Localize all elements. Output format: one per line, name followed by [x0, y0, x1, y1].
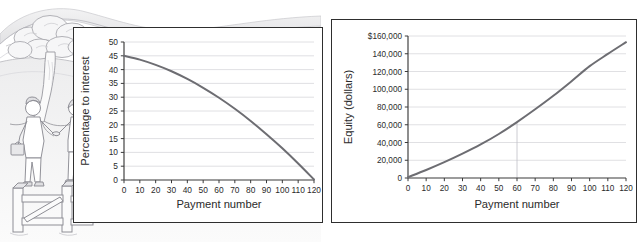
y-tick-label: 0: [113, 175, 118, 185]
page-caption-fragment: [0, 232, 643, 242]
y-tick-label: 40,000: [377, 139, 402, 148]
data-curve: [124, 56, 314, 180]
y-tick-label: 20: [109, 120, 119, 130]
x-tick-label: 90: [567, 184, 577, 193]
x-tick-label: 70: [531, 184, 541, 193]
x-tick-label: 100: [275, 185, 289, 195]
equity-chart-svg: 020,00040,00060,00080,000100,000120,0001…: [332, 20, 636, 222]
x-tick-label: 50: [199, 185, 209, 195]
x-tick-label: 120: [307, 185, 321, 195]
x-tick-label: 90: [262, 185, 272, 195]
x-tick-label: 0: [122, 185, 127, 195]
x-tick-label: 80: [549, 184, 559, 193]
x-tick-label: 0: [406, 184, 411, 193]
equity-chart-panel: 020,00040,00060,00080,000100,000120,0001…: [331, 19, 637, 223]
x-tick-label: 10: [135, 185, 145, 195]
figure-page: 0510152025303540455001020304050607080901…: [0, 0, 643, 242]
y-tick-label: 10: [109, 147, 119, 157]
y-tick-label: 120,000: [372, 68, 402, 77]
y-tick-label: 40: [109, 65, 119, 75]
x-tick-label: 30: [458, 184, 468, 193]
x-tick-label: 10: [422, 184, 432, 193]
y-tick-label: 5: [113, 161, 118, 171]
y-tick-label: 140,000: [372, 50, 402, 59]
y-tick-label: 35: [109, 78, 119, 88]
x-tick-label: 40: [183, 185, 193, 195]
x-tick-label: 30: [167, 185, 177, 195]
y-tick-label: 0: [397, 174, 402, 183]
x-tick-label: 70: [230, 185, 240, 195]
x-tick-label: 50: [494, 184, 504, 193]
x-tick-label: 80: [246, 185, 256, 195]
y-tick-label: 50: [109, 37, 119, 47]
y-tick-label: 20,000: [377, 156, 402, 165]
y-tick-label: 45: [109, 51, 119, 61]
interest-chart-panel: 0510152025303540455001020304050607080901…: [73, 27, 323, 223]
y-axis-title: Equity (dollars): [342, 69, 354, 144]
x-tick-label: 60: [512, 184, 522, 193]
y-tick-label: 25: [109, 106, 119, 116]
x-tick-label: 120: [619, 184, 633, 193]
x-tick-label: 60: [214, 185, 224, 195]
y-tick-label: 15: [109, 134, 119, 144]
x-tick-label: 110: [291, 185, 305, 195]
interest-chart-svg: 0510152025303540455001020304050607080901…: [74, 28, 322, 222]
y-tick-label: 80,000: [377, 103, 402, 112]
y-axis-title: Percentage to interest: [79, 55, 91, 165]
x-tick-label: 20: [440, 184, 450, 193]
y-tick-label: $160,000: [368, 32, 403, 41]
x-tick-label: 100: [583, 184, 597, 193]
x-axis-title: Payment number: [474, 198, 559, 210]
x-tick-label: 110: [601, 184, 614, 193]
y-tick-label: 30: [109, 92, 119, 102]
y-tick-label: 60,000: [377, 121, 402, 130]
x-tick-label: 20: [151, 185, 161, 195]
x-tick-label: 40: [476, 184, 486, 193]
y-tick-label: 100,000: [372, 85, 402, 94]
x-axis-title: Payment number: [176, 198, 261, 210]
